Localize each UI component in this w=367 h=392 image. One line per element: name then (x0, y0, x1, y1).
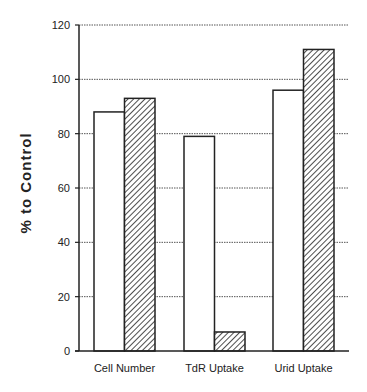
y-tick-label: 120 (52, 19, 70, 31)
bar-open (94, 112, 125, 351)
bar-open (184, 136, 215, 351)
bar-chart: 020406080100120 Cell NumberTdR UptakeUri… (0, 0, 367, 392)
bar-hatched (215, 332, 246, 351)
category-label: TdR Uptake (185, 362, 244, 374)
category-labels: Cell NumberTdR UptakeUrid Uptake (94, 362, 333, 374)
y-axis-title: % to Control (17, 132, 34, 233)
y-tick-label: 80 (58, 128, 70, 140)
y-tick-label: 40 (58, 236, 70, 248)
y-tick-label: 60 (58, 182, 70, 194)
y-tick-label: 0 (64, 345, 70, 357)
y-tick-labels: 020406080100120 (52, 19, 70, 357)
bars (94, 49, 334, 351)
bar-hatched (304, 49, 335, 351)
y-tick-label: 20 (58, 291, 70, 303)
category-label: Cell Number (94, 362, 155, 374)
y-tick-label: 100 (52, 73, 70, 85)
category-label: Urid Uptake (274, 362, 332, 374)
bar-open (273, 90, 304, 351)
bar-hatched (125, 98, 156, 351)
